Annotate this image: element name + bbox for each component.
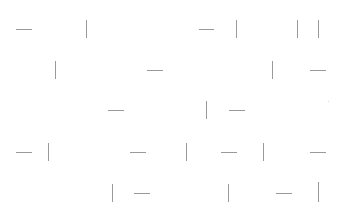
horizontal-line-segment <box>199 29 214 30</box>
horizontal-line-segment <box>310 152 326 153</box>
pattern-canvas <box>0 0 341 223</box>
horizontal-line-segment <box>16 152 32 153</box>
vertical-line-segment <box>318 182 319 202</box>
horizontal-line-segment <box>310 70 326 71</box>
horizontal-line-segment <box>134 193 150 194</box>
vertical-line-segment <box>272 61 273 79</box>
horizontal-line-segment <box>276 193 292 194</box>
horizontal-line-segment <box>108 110 124 111</box>
vertical-line-segment <box>263 143 264 161</box>
vertical-line-segment <box>86 20 87 38</box>
vertical-line-segment <box>206 101 207 119</box>
vertical-line-segment <box>112 184 113 202</box>
horizontal-line-segment <box>229 110 245 111</box>
vertical-line-segment <box>236 20 237 38</box>
vertical-line-segment <box>48 143 49 161</box>
vertical-line-segment <box>318 20 319 38</box>
vertical-line-segment <box>55 61 56 79</box>
dot-mark <box>328 101 329 102</box>
horizontal-line-segment <box>147 70 163 71</box>
horizontal-line-segment <box>130 152 146 153</box>
vertical-line-segment <box>297 20 298 38</box>
vertical-line-segment <box>186 143 187 161</box>
horizontal-line-segment <box>16 29 32 30</box>
horizontal-line-segment <box>221 152 237 153</box>
vertical-line-segment <box>228 184 229 202</box>
